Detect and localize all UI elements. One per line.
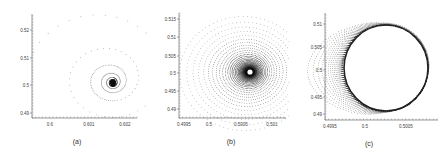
y-tick-label: 0.5 <box>170 71 177 76</box>
y-tick-label: 0.49 <box>167 107 176 112</box>
caption-a: (a) <box>57 138 97 145</box>
y-tick-label: 0.51 <box>20 56 29 61</box>
y-tick-label: 0.495 <box>165 89 177 94</box>
caption-b: (b) <box>211 138 251 145</box>
y-tick-label: 0.505 <box>311 45 323 50</box>
y-tick-label: 0.52 <box>20 28 29 33</box>
y-tick-label: 0.505 <box>165 54 177 59</box>
phase-plot-b: 0.5150.510.5050.50.4950.490.49950.50.500… <box>149 0 298 155</box>
x-tick-label: 0.4995 <box>177 122 191 127</box>
phase-plot-a: 0.520.510.50.490.60.6010.602 <box>0 0 149 155</box>
trajectory-a <box>33 15 149 118</box>
chart-panel-b: 0.5150.510.5050.50.4950.490.49950.50.500… <box>149 0 298 155</box>
x-tick-label: 0.601 <box>83 122 95 127</box>
x-tick-label: 0.5 <box>206 122 213 127</box>
y-tick-label: 0.49 <box>313 112 322 117</box>
x-tick-label: 0.4995 <box>323 124 337 129</box>
equilibrium-point <box>247 69 252 74</box>
y-tick-label: 0.49 <box>20 111 29 116</box>
trajectory-b <box>180 16 290 131</box>
y-tick-label: 0.51 <box>167 35 176 40</box>
chart-panel-a: 0.520.510.50.490.60.6010.602 (a) <box>0 0 149 155</box>
x-tick-label: 0.5 <box>362 124 369 129</box>
phase-plot-c: 0.510.5050.50.4950.490.49950.50.5005 <box>298 0 447 155</box>
x-tick-label: 0.501 <box>266 122 278 127</box>
y-tick-label: 0.495 <box>311 95 323 100</box>
y-tick-label: 0.515 <box>165 17 177 22</box>
chart-panel-c: 0.510.5050.50.4950.490.49950.50.5005 (c) <box>298 0 447 155</box>
x-tick-label: 0.602 <box>119 122 131 127</box>
x-tick-label: 0.5005 <box>399 124 413 129</box>
caption-c: (c) <box>349 140 389 147</box>
y-tick-label: 0.51 <box>313 22 322 27</box>
y-tick-label: 0.5 <box>23 83 30 88</box>
axes: 0.520.510.50.490.60.6010.602 <box>20 14 137 127</box>
x-tick-label: 0.6 <box>47 122 54 127</box>
y-tick-label: 0.5 <box>316 68 323 73</box>
